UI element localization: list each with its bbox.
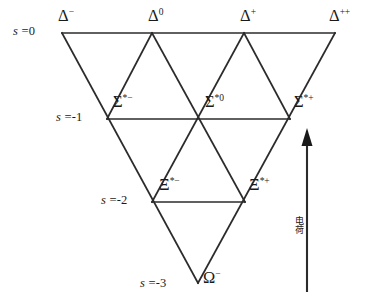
- baryon-decuplet-figure: s =0 s =-1 s =-2 s =-3 Δ− Δ0 Δ+ Δ++ Σ*− …: [0, 0, 373, 303]
- particle-symbol-omega-minus: Ω: [203, 268, 215, 287]
- particle-label-sigma-star-minus: Σ*−: [113, 94, 132, 111]
- particle-charge-delta-plusplus: ++: [340, 7, 350, 17]
- particle-charge-omega-minus: −: [215, 269, 220, 279]
- row-label-s0: s =0: [13, 25, 35, 38]
- row-label-s-minus-2-value: =-2: [106, 193, 127, 207]
- particle-symbol-sigma-star-plus: Σ: [294, 92, 304, 111]
- particle-symbol-xi-star-plus: Ξ: [249, 175, 260, 194]
- particle-symbol-xi-star-minus: Ξ: [159, 175, 170, 194]
- particle-label-delta-zero: Δ0: [148, 8, 163, 25]
- particle-label-sigma-star-plus: Σ*+: [294, 94, 313, 111]
- row-label-s-minus-3-value: =-3: [145, 276, 166, 290]
- row-label-s0-value: =0: [18, 24, 35, 38]
- particle-charge-sigma-star-minus: *−: [123, 93, 133, 103]
- particle-label-delta-plusplus: Δ++: [329, 8, 350, 25]
- particle-charge-sigma-star-plus: *+: [304, 93, 314, 103]
- particle-symbol-sigma-star-minus: Σ: [113, 92, 123, 111]
- particle-charge-xi-star-minus: *−: [170, 176, 180, 186]
- particle-charge-xi-star-plus: *+: [260, 176, 270, 186]
- lattice-line-left-3: [244, 33, 290, 119]
- particle-charge-delta-minus: −: [69, 7, 74, 17]
- particle-label-xi-star-plus: Ξ*+: [249, 177, 269, 194]
- particle-symbol-delta-zero: Δ: [148, 6, 159, 25]
- particle-symbol-delta-minus: Δ: [58, 6, 69, 25]
- particle-label-sigma-star-zero: Σ*0: [205, 94, 224, 111]
- lattice-line-left-1: [62, 33, 198, 283]
- row-label-s-minus-1-value: =-1: [61, 110, 82, 124]
- particle-symbol-delta-plus: Δ: [240, 6, 251, 25]
- particle-symbol-sigma-star-zero: Σ: [205, 92, 215, 111]
- row-label-s-minus-3: s =-3: [140, 277, 166, 290]
- particle-charge-delta-zero: 0: [159, 7, 164, 17]
- particle-label-delta-minus: Δ−: [58, 8, 74, 25]
- decuplet-lattice-svg: [0, 0, 373, 303]
- row-label-s-minus-2: s =-2: [101, 194, 127, 207]
- row-label-s-minus-1: s =-1: [56, 111, 82, 124]
- particle-label-xi-star-minus: Ξ*−: [159, 177, 179, 194]
- particle-symbol-delta-plusplus: Δ: [329, 6, 340, 25]
- particle-label-delta-plus: Δ+: [240, 8, 256, 25]
- lattice-line-right-1: [198, 33, 335, 283]
- charge-axis-arrow: [302, 128, 313, 292]
- charge-axis-caption: 电荷: [293, 216, 306, 234]
- particle-charge-delta-plus: +: [251, 7, 256, 17]
- particle-charge-sigma-star-zero: *0: [215, 93, 224, 103]
- particle-label-omega-minus: Ω−: [203, 270, 220, 287]
